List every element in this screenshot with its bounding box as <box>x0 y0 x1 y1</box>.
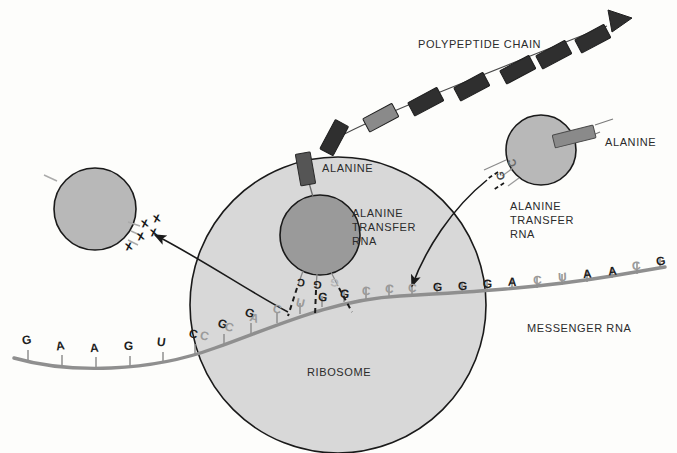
mrna-base: C <box>533 273 542 287</box>
alanine-label-center: ALANINE <box>322 162 373 176</box>
mrna-base-codon: C <box>361 284 371 299</box>
trna-center-body <box>280 195 360 275</box>
trna-right-body <box>506 115 576 185</box>
mrna-base: G <box>433 280 443 294</box>
messenger-rna-label: MESSENGER RNA <box>527 322 631 336</box>
mrna-base-codon: C <box>408 281 418 296</box>
trna-center-anticodon-base: C <box>296 277 305 290</box>
alanine-label-right: ALANINE <box>605 136 656 150</box>
mrna-base-codon: C <box>384 282 394 297</box>
alanine-transfer-rna-label-center: ALANINE TRANSFER RNA <box>352 207 416 248</box>
mrna-base: G <box>483 277 493 291</box>
trna-center-anticodon-base: G <box>312 279 322 292</box>
mrna-base: G <box>458 279 468 293</box>
mrna-base: A <box>508 275 517 289</box>
diagram-canvas: G A A G U C G G C C A C U G G C C C G G … <box>0 0 677 453</box>
polypeptide-chain-label: POLYPEPTIDE CHAIN <box>418 38 541 52</box>
mrna-base: A <box>582 267 592 282</box>
alanine-transfer-rna-label-right: ALANINE TRANSFER RNA <box>510 200 574 241</box>
mrna-base: C <box>631 258 642 273</box>
mrna-base: A <box>90 341 100 356</box>
mrna-base: G <box>655 253 666 268</box>
mrna-base: A <box>55 338 66 353</box>
mrna-base: A <box>607 264 617 279</box>
ribosome-label: RIBOSOME <box>307 366 371 380</box>
mrna-base: U <box>156 335 166 350</box>
mrna-base: U <box>558 270 567 284</box>
mrna-base-codon: G <box>339 286 350 301</box>
trna-right-stem-tail <box>484 160 506 170</box>
mrna-base: G <box>124 339 134 353</box>
diagram-graphics <box>0 0 677 453</box>
